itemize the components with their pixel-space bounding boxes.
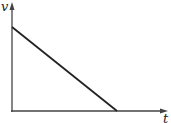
velocity-time-graph: v t — [0, 0, 171, 123]
y-axis-label: v — [1, 0, 9, 14]
x-axis-label: t — [163, 111, 169, 123]
velocity-line — [12, 27, 117, 111]
y-axis-arrow-icon — [10, 2, 15, 10]
